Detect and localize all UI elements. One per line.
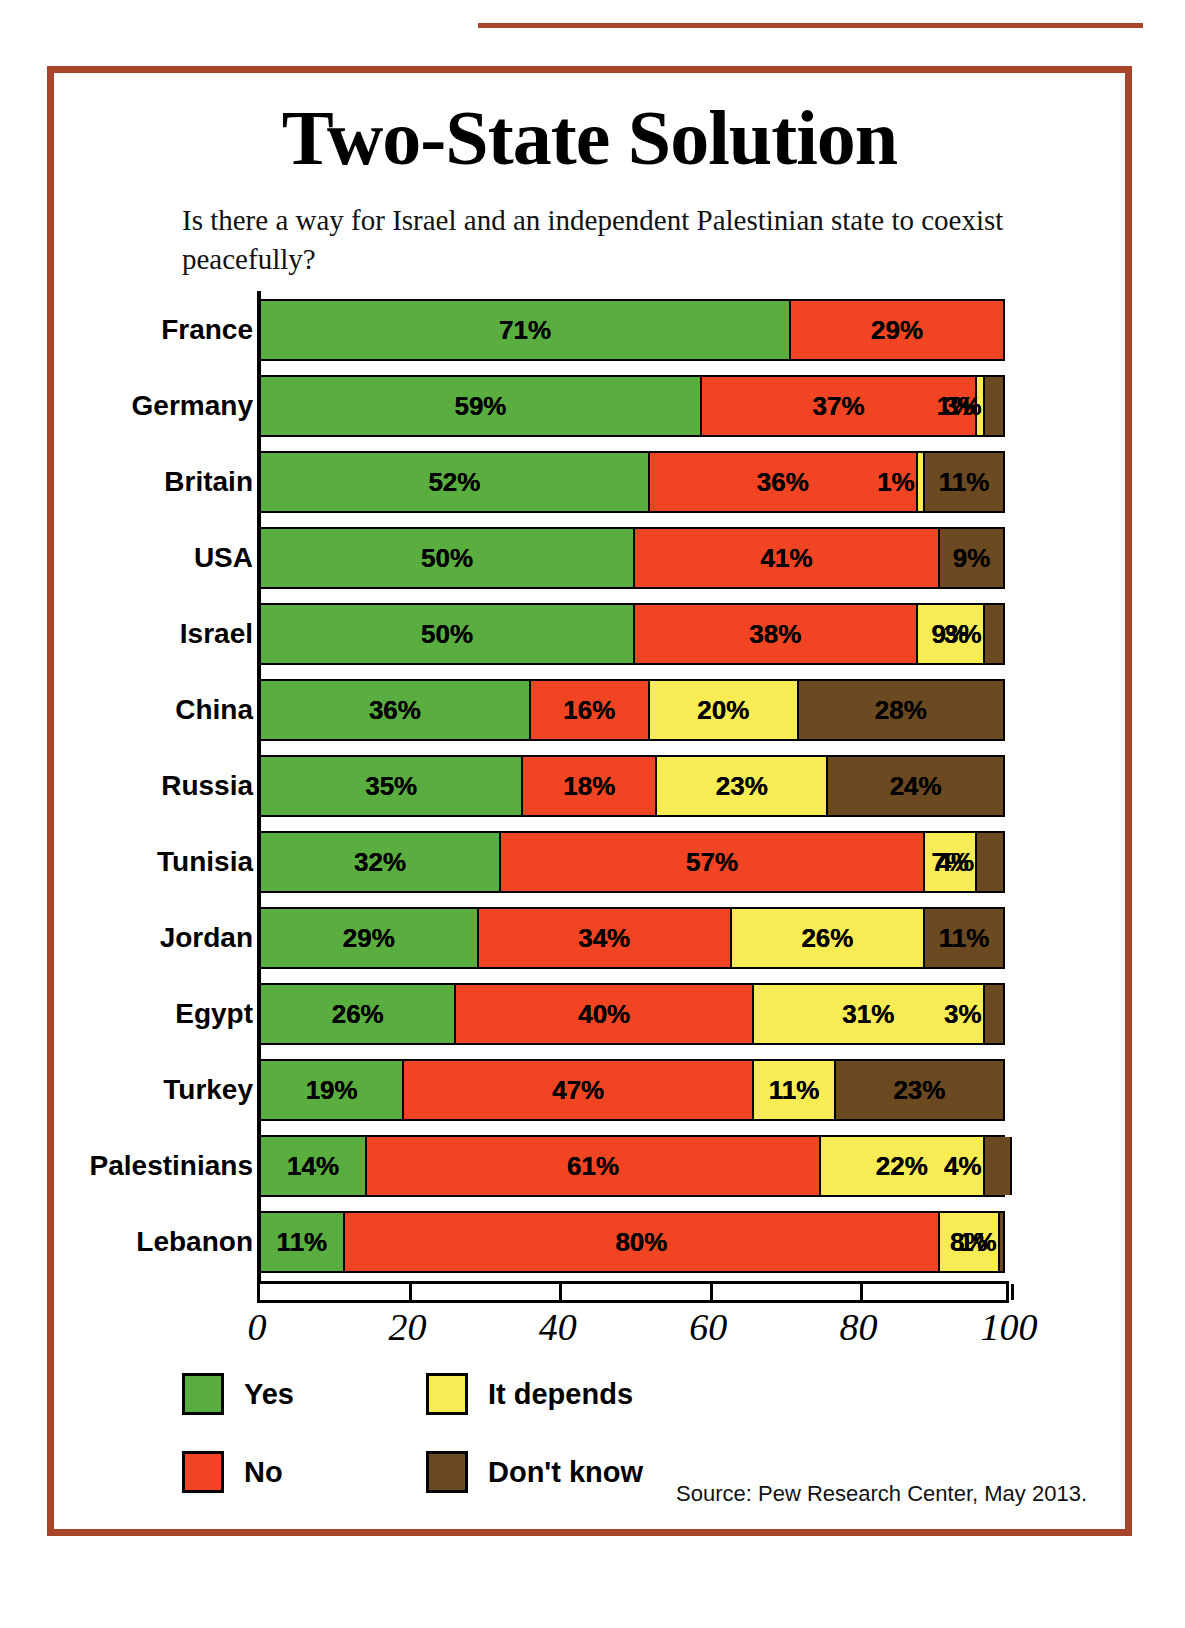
stacked-bar: 52%36%1%11%: [261, 451, 1005, 513]
bar-segment-no: 40%: [454, 985, 752, 1043]
stacked-bar: 36%16%20%28%: [261, 679, 1005, 741]
stacked-bar: 29%34%26%11%: [261, 907, 1005, 969]
bar-value-label: 31%: [842, 999, 894, 1030]
bar-value-label: 37%: [813, 391, 865, 422]
bar-segment-no: 80%: [343, 1213, 938, 1271]
bar-segment-yes: 71%: [261, 301, 789, 359]
bar-value-label: 24%: [890, 771, 942, 802]
bar-value-label: 57%: [686, 847, 738, 878]
row-label-palestinians: Palestinians: [90, 1135, 253, 1197]
chart-row: Russia35%18%23%24%: [257, 755, 1005, 817]
bar-segment-dont-know: 3%: [983, 377, 1005, 435]
row-label-germany: Germany: [132, 375, 253, 437]
bar-segment-it-depends: 11%: [752, 1061, 834, 1119]
x-axis-tick: [1011, 1284, 1014, 1300]
chart-row: Turkey19%47%11%23%: [257, 1059, 1005, 1121]
x-tick-label-60: 60: [689, 1305, 727, 1349]
bar-segment-yes: 11%: [261, 1213, 343, 1271]
bar-value-label: 3%: [944, 999, 985, 1030]
stacked-bar: 71%29%: [261, 299, 1005, 361]
bar-segment-dont-know: 11%: [923, 453, 1005, 511]
chart-row: Lebanon11%80%8%1%: [257, 1211, 1005, 1273]
row-label-israel: Israel: [180, 603, 253, 665]
bar-segment-no: 34%: [477, 909, 730, 967]
chart-plot-area: France71%29%Germany59%37%1%3%Britain52%3…: [257, 291, 1005, 1281]
x-axis: [257, 1281, 1009, 1303]
bar-segment-it-depends: 1%: [916, 453, 923, 511]
bar-value-label: 20%: [697, 695, 749, 726]
bar-value-label: 19%: [306, 1075, 358, 1106]
bar-segment-dont-know: 1%: [998, 1213, 1005, 1271]
bar-value-label: 50%: [421, 543, 473, 574]
chart-row: USA50%41%9%: [257, 527, 1005, 589]
chart-row: Palestinians14%61%22%4%: [257, 1135, 1005, 1197]
stacked-bar: 19%47%11%23%: [261, 1059, 1005, 1121]
bar-value-label: 32%: [354, 847, 406, 878]
legend-swatch-it-depends: [426, 1373, 468, 1415]
bar-segment-dont-know: 4%: [975, 833, 1005, 891]
bar-value-label: 23%: [716, 771, 768, 802]
bar-segment-dont-know: 3%: [983, 605, 1005, 663]
x-axis-tick: [860, 1284, 863, 1300]
bar-segment-yes: 50%: [261, 605, 633, 663]
x-axis-tick: [710, 1284, 713, 1300]
bar-segment-no: 37%: [700, 377, 975, 435]
chart-row: Jordan29%34%26%11%: [257, 907, 1005, 969]
bar-segment-it-depends: 23%: [655, 757, 826, 815]
legend-item-no: No: [182, 1451, 283, 1493]
legend-label-no: No: [244, 1456, 283, 1489]
legend-swatch-no: [182, 1451, 224, 1493]
row-label-russia: Russia: [161, 755, 253, 817]
bar-value-label: 26%: [332, 999, 384, 1030]
row-label-china: China: [175, 679, 253, 741]
x-tick-label-80: 80: [840, 1305, 878, 1349]
bar-segment-yes: 35%: [261, 757, 521, 815]
bar-segment-dont-know: 3%: [983, 985, 1005, 1043]
bar-value-label: 11%: [939, 923, 990, 954]
bar-segment-no: 36%: [648, 453, 916, 511]
bar-segment-yes: 36%: [261, 681, 529, 739]
legend-label-dont-know: Don't know: [488, 1456, 643, 1489]
bar-value-label: 80%: [615, 1227, 667, 1258]
bar-segment-no: 16%: [529, 681, 648, 739]
bar-value-label: 61%: [567, 1151, 619, 1182]
bar-value-label: 28%: [875, 695, 927, 726]
bar-value-label: 1%: [959, 1227, 1000, 1258]
stacked-bar: 11%80%8%1%: [261, 1211, 1005, 1273]
x-axis-tick: [409, 1284, 412, 1300]
stacked-bar: 59%37%1%3%: [261, 375, 1005, 437]
bar-segment-it-depends: 26%: [730, 909, 923, 967]
row-label-jordan: Jordan: [160, 907, 253, 969]
bar-segment-no: 57%: [499, 833, 923, 891]
stacked-bar: 14%61%22%4%: [261, 1135, 1005, 1197]
bar-segment-dont-know: 11%: [923, 909, 1005, 967]
bar-value-label: 36%: [369, 695, 421, 726]
bar-value-label: 11%: [769, 1075, 820, 1106]
row-label-egypt: Egypt: [175, 983, 253, 1045]
bar-segment-no: 61%: [365, 1137, 819, 1195]
source-note: Source: Pew Research Center, May 2013.: [676, 1481, 1087, 1507]
stacked-bar: 35%18%23%24%: [261, 755, 1005, 817]
legend-item-yes: Yes: [182, 1373, 294, 1415]
bar-value-label: 4%: [944, 1151, 985, 1182]
row-label-lebanon: Lebanon: [136, 1211, 253, 1273]
bar-segment-dont-know: 24%: [826, 757, 1005, 815]
stacked-bar: 50%38%9%3%: [261, 603, 1005, 665]
bar-segment-no: 47%: [402, 1061, 752, 1119]
x-axis-tick-labels: 020406080100: [257, 1305, 1009, 1351]
chart-row: Britain52%36%1%11%: [257, 451, 1005, 513]
bar-value-label: 29%: [343, 923, 395, 954]
bar-value-label: 71%: [499, 315, 551, 346]
bar-value-label: 34%: [578, 923, 630, 954]
bar-value-label: 26%: [801, 923, 853, 954]
bar-value-label: 22%: [876, 1151, 928, 1182]
bar-value-label: 23%: [893, 1075, 945, 1106]
bar-segment-yes: 29%: [261, 909, 477, 967]
legend-swatch-dont-know: [426, 1451, 468, 1493]
bar-segment-yes: 52%: [261, 453, 648, 511]
bar-value-label: 14%: [287, 1151, 339, 1182]
bar-segment-yes: 59%: [261, 377, 700, 435]
bar-value-label: 29%: [871, 315, 923, 346]
bar-value-label: 50%: [421, 619, 473, 650]
legend-label-yes: Yes: [244, 1378, 294, 1411]
